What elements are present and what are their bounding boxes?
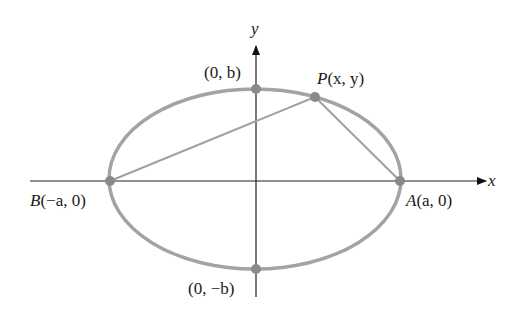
label-a: A(a, 0) xyxy=(405,191,452,210)
segment-bp xyxy=(110,97,315,181)
label-b: B(−a, 0) xyxy=(30,191,86,210)
label-a-name: A xyxy=(405,191,417,210)
ellipse-curve xyxy=(109,89,401,269)
ellipse-diagram: y x (0, b) P(x, y) B(−a, 0) A(a, 0) (0, … xyxy=(0,0,519,317)
label-p-coords: (x, y) xyxy=(327,69,364,88)
point-a xyxy=(395,176,405,186)
label-b-name: B xyxy=(30,191,41,210)
point-bottom xyxy=(251,264,261,274)
point-p xyxy=(310,92,320,102)
label-a-coords: (a, 0) xyxy=(416,191,452,210)
point-top xyxy=(251,84,261,94)
x-axis-label: x xyxy=(487,171,496,190)
label-p-name: P xyxy=(316,69,327,88)
label-p: P(x, y) xyxy=(316,69,364,88)
label-top: (0, b) xyxy=(204,63,241,82)
label-bottom: (0, −b) xyxy=(188,279,234,298)
label-b-coords: (−a, 0) xyxy=(40,191,85,210)
y-axis-label: y xyxy=(249,19,259,38)
point-b xyxy=(105,176,115,186)
